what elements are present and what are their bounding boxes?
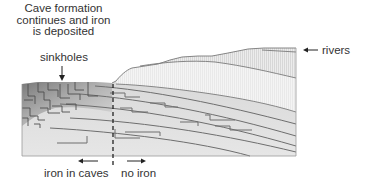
sinkholes-label: sinkholes bbox=[40, 52, 88, 63]
cave-formation-caption: Cave formation continues and iron is dep… bbox=[6, 3, 121, 38]
iron-in-caves-arrow-icon bbox=[78, 159, 98, 164]
iron-in-caves-label: iron in caves bbox=[44, 168, 109, 179]
rivers-arrow-icon bbox=[303, 48, 318, 53]
cave-formation-diagram: Cave formation continues and iron is dep… bbox=[0, 0, 372, 183]
rivers-label: rivers bbox=[322, 45, 350, 56]
no-iron-label: no iron bbox=[121, 168, 156, 179]
no-iron-arrow-icon bbox=[127, 159, 146, 164]
sinkholes-arrow-icon bbox=[59, 66, 65, 81]
caption-line-3: is deposited bbox=[6, 26, 121, 38]
caption-line-1: Cave formation bbox=[6, 3, 121, 15]
